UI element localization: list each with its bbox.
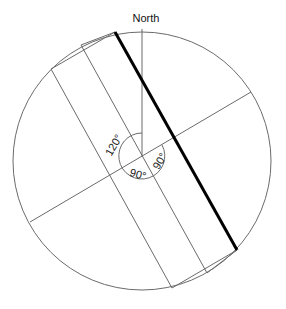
top-chord-inner [81, 32, 115, 45]
top-chord [51, 32, 115, 69]
north-label: North [133, 12, 160, 24]
angle-label-90-right: 90° [150, 151, 169, 171]
bottom-chord-inner [207, 250, 237, 273]
strip-line-inner [81, 45, 207, 273]
orientation-diagram: North 120° 90° 90° [0, 0, 286, 309]
bottom-chord [172, 250, 237, 288]
angle-label-90-bottom: 90° [128, 166, 147, 182]
cross-axis-line [30, 92, 251, 222]
